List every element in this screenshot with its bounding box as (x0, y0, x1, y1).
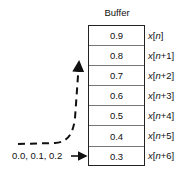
arrows-overlay (0, 0, 187, 176)
shift-up-dashed-arrow-icon (18, 62, 79, 144)
